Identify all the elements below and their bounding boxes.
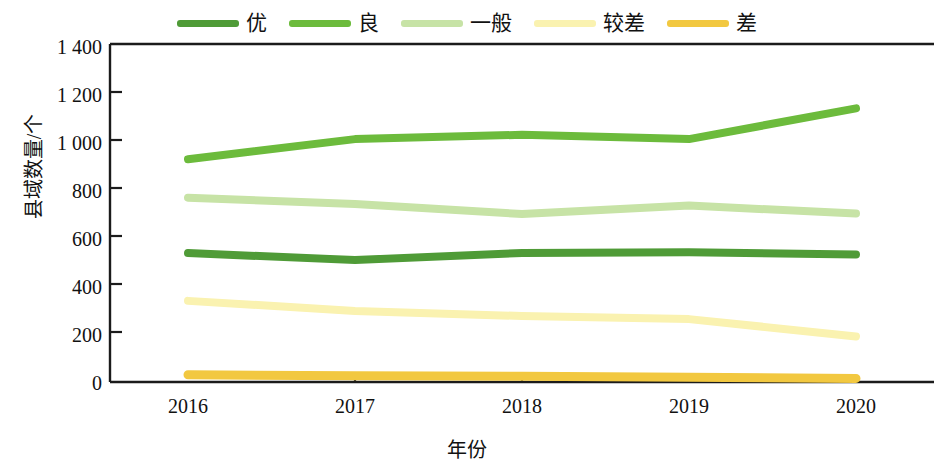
series-line-cha	[188, 375, 856, 379]
series-lines	[188, 108, 856, 378]
series-line-yiban	[188, 198, 856, 214]
series-line-you	[188, 252, 856, 260]
chart-figure: 优 良 一般 较差 差 县域数量/个 1 400 1 200 1 000 800…	[0, 0, 934, 464]
plot-area	[0, 0, 934, 464]
series-line-jiaocha	[188, 301, 856, 337]
series-line-liang	[188, 108, 856, 159]
y-axis-ticks	[110, 92, 122, 332]
